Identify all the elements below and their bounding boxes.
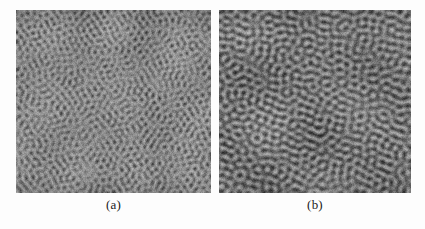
panel-caption-a: (a) — [16, 197, 211, 213]
micrograph-image-a — [16, 10, 211, 193]
micrograph-panel-a — [16, 10, 211, 193]
micrograph-panel-b — [219, 10, 411, 193]
figure-container: (a) (b) — [0, 0, 425, 229]
micrograph-image-b — [219, 10, 411, 193]
panel-caption-b: (b) — [219, 197, 411, 213]
